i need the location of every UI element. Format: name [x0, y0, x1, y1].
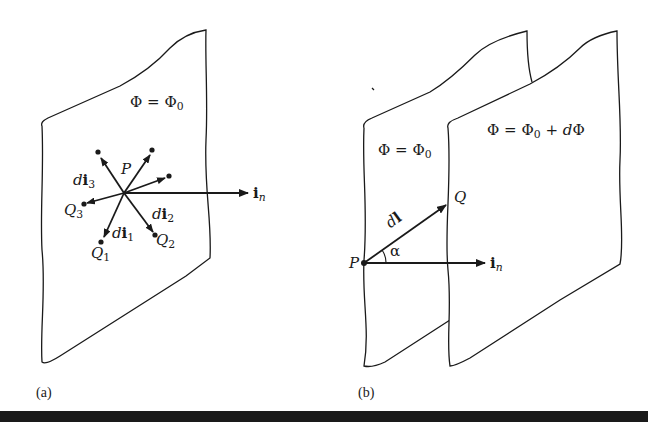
- figure-drawing: [0, 0, 648, 422]
- surface-label-a: Φ = Φ0: [130, 95, 184, 110]
- vector-label-di1: di1: [112, 226, 134, 241]
- point-P-dot: [361, 260, 367, 266]
- endpoint-label-Q1: Q1: [91, 246, 110, 261]
- normal-label-a: in: [253, 186, 266, 201]
- endpoint-label-Q2: Q2: [156, 233, 175, 248]
- bottom-rule: [0, 411, 648, 422]
- endpoint-label-Q3: Q3: [64, 203, 83, 218]
- vector-dl: [364, 205, 446, 263]
- vector-label-di3: di3: [73, 173, 95, 188]
- angle-label-alpha: α: [390, 244, 400, 259]
- panel-b-surface-2: [447, 31, 622, 366]
- vector-di3: [87, 193, 124, 203]
- surface-label-b2: Φ = Φ0 + dΦ: [487, 123, 585, 138]
- surface-label-b1: Φ = Φ0: [378, 143, 432, 158]
- point-label-P-a: P: [121, 162, 131, 177]
- normal-label-b: in: [490, 256, 503, 271]
- caption-b: (b): [358, 386, 374, 400]
- figure-canvas: Φ = Φ0 P di3 Q3 di2 Q2 di1 Q1 in (a) Φ =…: [0, 0, 648, 422]
- vector-label-di2: di2: [152, 207, 174, 222]
- angle-arc: [382, 250, 386, 263]
- point-label-Q-b: Q: [454, 190, 466, 205]
- caption-a: (a): [36, 386, 52, 400]
- point-label-P-b: P: [349, 256, 359, 271]
